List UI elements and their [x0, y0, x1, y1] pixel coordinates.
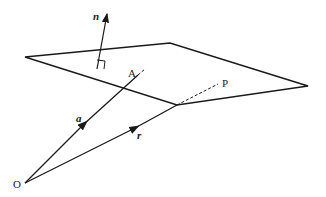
label-a-point: A — [128, 67, 136, 79]
plane — [25, 43, 308, 105]
vector-a-extension — [138, 69, 145, 75]
plane-vector-diagram: n A P a r O — [0, 0, 326, 197]
label-origin: O — [13, 178, 21, 190]
vector-r — [25, 105, 177, 183]
label-vector-a: a — [76, 112, 82, 124]
label-p: P — [222, 77, 228, 89]
label-vector-r: r — [137, 129, 142, 141]
label-n: n — [93, 10, 99, 22]
vector-a — [25, 75, 138, 183]
